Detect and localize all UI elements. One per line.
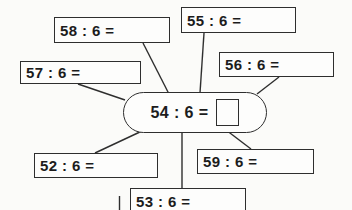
problem-box-55: 55 : 6 = (181, 7, 296, 33)
problem-label-52: 52 : 6 = (40, 157, 94, 174)
problem-box-58: 58 : 6 = (54, 17, 170, 43)
problem-label-59: 59 : 6 = (203, 153, 257, 170)
connector-line-58 (143, 43, 169, 94)
problem-label-55: 55 : 6 = (187, 12, 241, 29)
center-problem-label: 54 : 6 = (151, 104, 209, 122)
problem-label-57: 57 : 6 = (26, 64, 80, 81)
answer-box (216, 99, 239, 126)
problem-label-53: 53 : 6 = (136, 193, 190, 210)
problem-box-57: 57 : 6 = (20, 61, 141, 84)
problem-box-53: 53 : 6 = (130, 188, 246, 210)
problem-box-56: 56 : 6 = (219, 52, 334, 77)
problem-label-58: 58 : 6 = (60, 22, 114, 39)
problem-label-56: 56 : 6 = (225, 56, 279, 73)
connector-line-56 (257, 77, 279, 94)
center-problem-box: 54 : 6 = (123, 92, 267, 133)
connector-line-57 (78, 84, 125, 100)
connector-line-52 (95, 131, 142, 153)
problem-box-52: 52 : 6 = (34, 153, 158, 178)
division-worksheet-diagram: 58 : 6 = 55 : 6 = 57 : 6 = 56 : 6 = 52 :… (0, 0, 352, 210)
problem-box-59: 59 : 6 = (197, 149, 314, 174)
connector-line-55 (200, 33, 204, 93)
